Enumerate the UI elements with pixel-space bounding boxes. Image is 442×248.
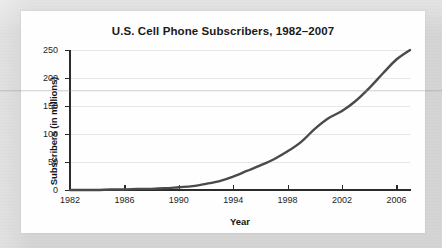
- y-tick-label: 250: [43, 45, 58, 55]
- x-tick-label: 1982: [60, 195, 80, 205]
- chart-card: U.S. Cell Phone Subscribers, 1982–2007 S…: [21, 11, 425, 233]
- y-tick-label: 200: [43, 73, 58, 83]
- x-tick-label: 1994: [223, 195, 243, 205]
- series-path-subscribers: [70, 50, 410, 190]
- series-line-chart: [70, 50, 410, 190]
- plot-area: 050100150200250 198219861990199419982002…: [70, 50, 410, 190]
- y-tick-label: 100: [43, 129, 58, 139]
- screenshot-page: U.S. Cell Phone Subscribers, 1982–2007 S…: [0, 0, 442, 248]
- x-axis-title: Year: [70, 216, 410, 227]
- x-tick-label: 1990: [169, 195, 189, 205]
- y-tick-label: 0: [53, 185, 58, 195]
- x-tick-label: 1986: [114, 195, 134, 205]
- y-tick-label: 150: [43, 101, 58, 111]
- x-tick-label: 2006: [386, 195, 406, 205]
- chart-title: U.S. Cell Phone Subscribers, 1982–2007: [21, 25, 425, 37]
- x-tick-label: 2002: [332, 195, 352, 205]
- x-tick-label: 1998: [278, 195, 298, 205]
- y-tick-label: 50: [48, 157, 58, 167]
